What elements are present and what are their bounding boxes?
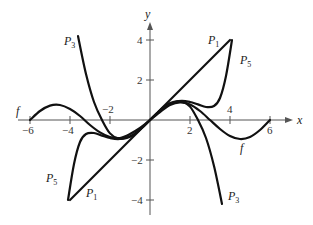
label-f-right: f xyxy=(240,141,245,155)
taylor-polynomial-chart: x y −6 −4 −2 2 4 6 4 2 −2 −4 f f xyxy=(0,0,313,225)
y-tick-label: 2 xyxy=(137,74,143,86)
x-tick-label: 6 xyxy=(267,124,273,136)
y-tick-label: 4 xyxy=(137,34,143,46)
x-tick-label: −4 xyxy=(62,124,74,136)
x-tick-label: 4 xyxy=(227,103,233,115)
label-p3-top: P3 xyxy=(63,34,75,50)
label-p3-bottom: P3 xyxy=(227,189,239,205)
label-p5-bottom: P5 xyxy=(45,171,57,187)
label-f-left: f xyxy=(16,104,21,118)
label-p1-bottom: P1 xyxy=(85,186,97,202)
y-tick-label: −4 xyxy=(131,194,143,206)
y-tick-label: −2 xyxy=(131,154,143,166)
x-tick-label: 2 xyxy=(187,124,193,136)
x-axis-arrow-icon xyxy=(285,117,293,123)
x-tick-label: −2 xyxy=(102,103,114,115)
label-p1-top: P1 xyxy=(207,33,219,49)
x-axis-label: x xyxy=(296,113,303,127)
label-p5-top: P5 xyxy=(239,53,251,69)
y-axis-label: y xyxy=(144,7,151,21)
x-tick-label: −6 xyxy=(22,124,34,136)
y-axis-arrow-icon xyxy=(147,22,153,30)
